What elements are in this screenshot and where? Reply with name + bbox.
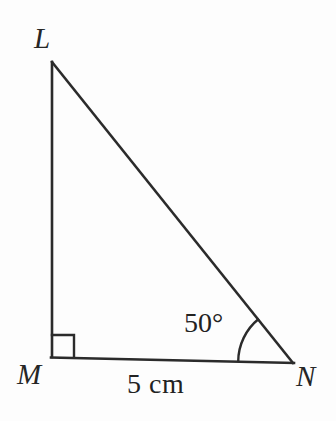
vertex-label-N: N: [296, 362, 315, 391]
vertex-label-L: L: [34, 24, 50, 53]
geometry-figure: L M N 50° 5 cm: [0, 0, 336, 421]
side-MN: [51, 358, 294, 364]
angle-measure-label: 50°: [184, 309, 223, 337]
side-length-label: 5 cm: [127, 370, 184, 398]
side-NL: [52, 62, 293, 363]
triangle-diagram: [0, 0, 336, 421]
angle-arc-N: [238, 319, 259, 362]
right-angle-marker: [52, 335, 74, 358]
vertex-label-M: M: [17, 360, 41, 389]
